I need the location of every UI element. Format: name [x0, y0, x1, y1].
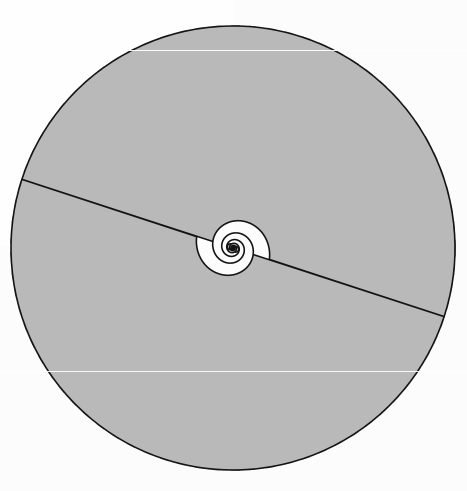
figure-container — [0, 0, 467, 491]
spiral-diagram-canvas — [0, 0, 467, 491]
